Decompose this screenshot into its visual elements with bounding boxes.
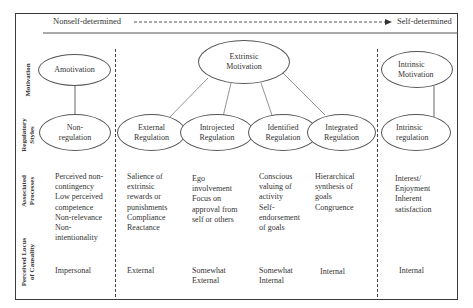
intrinsic-motivation-node: IntrinsicMotivation <box>381 51 453 88</box>
locus-internal-intrinsic: Internal <box>399 266 424 276</box>
processes-amotivation: Perceived non-contingencyLow perceivedco… <box>55 172 103 243</box>
processes-intrinsic: Interest/EnjoymentInherentsatisfaction <box>395 174 431 215</box>
locus-external: External <box>127 266 154 276</box>
locus-internal-integrated: Internal <box>320 267 345 277</box>
self-determined-label: Self-determined <box>397 16 452 26</box>
processes-external: Salience ofextrinsicrewards orpunishment… <box>127 172 167 233</box>
locus-somewhat-external: SomewhatExternal <box>192 266 226 286</box>
external-regulation-node: ExternalRegulation <box>117 114 186 151</box>
amotivation-node: Amotivation <box>38 54 111 86</box>
arrow-head-icon <box>385 19 392 25</box>
locus-impersonal: Impersonal <box>55 266 91 276</box>
divider-intrinsic <box>377 49 378 297</box>
divider-amotivation <box>115 49 116 297</box>
introjected-regulation-node: IntrojectedRegulation <box>180 114 254 151</box>
row-label-motivation: Motivation <box>24 50 32 110</box>
row-label-locus-of-causality: Perceived Locusof Causality <box>20 212 36 308</box>
row-label-regulatory-styles: RegulatoryStyles <box>20 105 36 165</box>
integrated-regulation-node: IntegratedRegulation <box>307 114 376 151</box>
processes-introjected: EgoinvolvementFocus onapproval fromself … <box>192 174 238 225</box>
intrinsic-regulation-node: Intrinsicregulation <box>381 114 451 151</box>
non-regulation-node: Non-regulation <box>39 114 111 151</box>
processes-identified: Consciousvaluing ofactivitySelf-endorsem… <box>259 172 300 233</box>
locus-somewhat-internal: SomewhatInternal <box>259 266 293 286</box>
processes-integrated: Hierarchicalsynthesis ofgoalsCongruence <box>315 172 355 213</box>
extrinsic-motivation-node: ExtrinsicMotivation <box>198 40 290 84</box>
